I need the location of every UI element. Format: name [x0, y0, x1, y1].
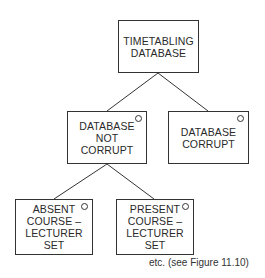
node-label-line: CORRUPT	[81, 144, 134, 156]
node-label-line: DATABASE	[181, 126, 236, 138]
figure-caption: etc. (see Figure 11.10)	[149, 257, 249, 268]
node-label-line: DATABASE	[79, 120, 134, 132]
node-label-line: COURSE –	[128, 215, 182, 227]
selection-marker-icon	[81, 203, 88, 210]
edge-root-not-corrupt	[107, 73, 158, 111]
node-label-line: LECTURER	[126, 227, 183, 239]
node-label-line: TIMETABLING	[123, 35, 193, 47]
edge-not-corrupt-absent	[54, 164, 107, 199]
node-timetabling-database: TIMETABLING DATABASE	[118, 20, 199, 73]
edge-root-corrupt	[158, 73, 208, 111]
node-label-line: DATABASE	[131, 47, 186, 59]
selection-marker-icon	[135, 115, 142, 122]
node-absent-course-lecturer-set: ABSENT COURSE – LECTURER SET	[15, 199, 93, 255]
node-database-not-corrupt: DATABASE NOT CORRUPT	[67, 111, 147, 164]
selection-marker-icon	[182, 203, 189, 210]
node-label-line: ABSENT	[33, 203, 76, 215]
node-label-line: PRESENT	[130, 203, 180, 215]
node-label-line: SET	[145, 239, 166, 251]
edge-not-corrupt-present	[107, 164, 154, 199]
node-database-corrupt: DATABASE CORRUPT	[168, 111, 249, 164]
node-present-course-lecturer-set: PRESENT COURSE – LECTURER SET	[116, 199, 194, 255]
node-label-line: COURSE –	[27, 215, 81, 227]
node-label-line: LECTURER	[25, 227, 82, 239]
selection-marker-icon	[237, 115, 244, 122]
node-label-line: NOT	[96, 132, 118, 144]
node-label-line: CORRUPT	[182, 138, 235, 150]
node-label-line: SET	[44, 239, 65, 251]
